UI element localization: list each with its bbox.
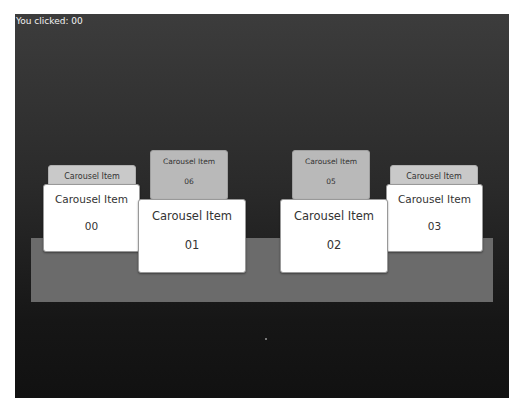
carousel-item-title: Carousel Item xyxy=(151,157,227,166)
carousel-item-number: 05 xyxy=(293,177,369,186)
carousel-item-06[interactable]: Carousel Item 06 xyxy=(150,150,228,200)
carousel-item-title: Carousel Item xyxy=(281,209,387,223)
carousel-item-03[interactable]: Carousel Item 03 xyxy=(386,184,483,252)
carousel-item-title: Carousel Item xyxy=(387,193,482,205)
carousel-item-title: Carousel Item xyxy=(139,209,245,223)
carousel-item-01[interactable]: Carousel Item 01 xyxy=(138,199,246,273)
carousel-item-number: 03 xyxy=(387,220,482,232)
carousel-stage: You clicked: 00 Carousel Item Carousel I… xyxy=(15,14,509,398)
center-marker xyxy=(265,338,267,340)
carousel-item-title: Carousel Item xyxy=(293,157,369,166)
carousel-item-05[interactable]: Carousel Item 05 xyxy=(292,150,370,200)
carousel-item-00[interactable]: Carousel Item 00 xyxy=(43,184,140,252)
carousel-item-number: 00 xyxy=(44,220,139,232)
carousel-item-02[interactable]: Carousel Item 02 xyxy=(280,199,388,273)
carousel-item-title: Carousel Item xyxy=(49,172,135,181)
carousel-item-number: 01 xyxy=(139,238,245,252)
carousel-item-number: 06 xyxy=(151,177,227,186)
carousel-item-number: 02 xyxy=(281,238,387,252)
carousel-item-title: Carousel Item xyxy=(44,193,139,205)
carousel-item-title: Carousel Item xyxy=(391,172,477,181)
click-status-text: You clicked: 00 xyxy=(16,16,83,27)
